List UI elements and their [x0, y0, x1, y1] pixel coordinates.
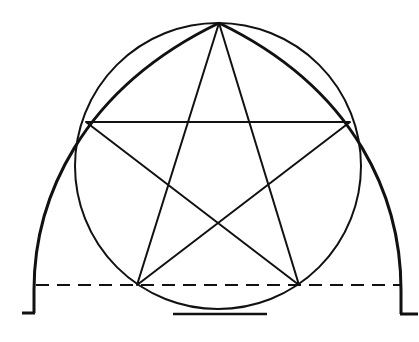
arch-right-curve: [219, 23, 401, 314]
pentagram-arch-diagram: [0, 0, 419, 342]
diagram-canvas: [0, 0, 419, 342]
inscribed-circle: [75, 23, 361, 309]
arch-left-curve: [34, 23, 219, 313]
pentagram-star: [86, 23, 350, 285]
